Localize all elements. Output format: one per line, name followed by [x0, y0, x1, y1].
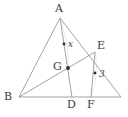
cevian-AD [60, 18, 72, 97]
vertex-label-D: D [67, 99, 76, 110]
geometry-figure: A B D E F G x 3 [0, 0, 128, 117]
vertex-label-G: G [53, 61, 62, 72]
vertex-label-B: B [4, 91, 12, 102]
geometry-canvas [0, 0, 128, 117]
vertex-label-A: A [55, 3, 63, 14]
point-marker-three-tick [94, 72, 97, 75]
point-marker-G [66, 66, 70, 70]
side-AC [60, 18, 121, 97]
vertex-label-E: E [97, 40, 105, 51]
measure-label-three: 3 [99, 70, 105, 79]
point-marker-x-tick [63, 43, 66, 46]
vertex-label-F: F [87, 99, 95, 110]
measure-label-x: x [68, 40, 73, 49]
